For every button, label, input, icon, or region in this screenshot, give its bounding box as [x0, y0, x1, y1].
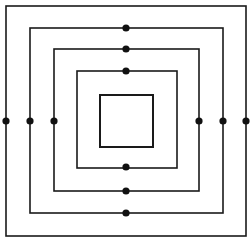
marker-left-square-1 — [2, 117, 9, 124]
marker-right-square-3 — [195, 117, 202, 124]
marker-top-square-4 — [122, 67, 129, 74]
nested-squares-figure — [0, 0, 252, 242]
marker-right-square-1 — [242, 117, 249, 124]
diagram-canvas — [0, 0, 252, 242]
marker-left-square-2 — [26, 117, 33, 124]
marker-top-square-2 — [122, 24, 129, 31]
marker-left-square-3 — [50, 117, 57, 124]
marker-top-square-3 — [122, 45, 129, 52]
marker-right-square-2 — [219, 117, 226, 124]
figure-background — [0, 0, 252, 242]
marker-bottom-square-4 — [122, 163, 129, 170]
marker-bottom-square-2 — [122, 209, 129, 216]
marker-bottom-square-3 — [122, 187, 129, 194]
